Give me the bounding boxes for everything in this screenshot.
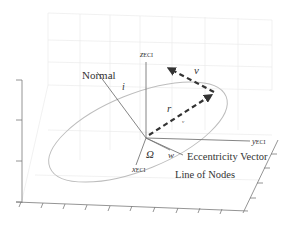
eccentricity-vector-label: Eccentricity Vector bbox=[187, 151, 268, 162]
arg-periapsis-label: w bbox=[168, 150, 174, 160]
left-frame-axis bbox=[16, 80, 22, 203]
position-subscript-label: v bbox=[182, 119, 185, 124]
normal-label: Normal bbox=[82, 69, 116, 81]
x-axis-label: xECI bbox=[131, 164, 145, 174]
y-axis-line bbox=[146, 138, 250, 141]
position-label: r bbox=[167, 102, 172, 114]
x-axis-line bbox=[136, 138, 146, 165]
orbital-elements-diagram: zECI yECI xECI Normal i v r v Ω w Eccent… bbox=[0, 0, 292, 227]
velocity-label: v bbox=[194, 64, 199, 76]
y-axis-label: yECI bbox=[251, 136, 265, 146]
z-axis-label: zECI bbox=[139, 49, 153, 59]
line-of-nodes-label: Line of Nodes bbox=[175, 169, 235, 180]
inclination-label: i bbox=[122, 81, 125, 92]
position-vector bbox=[149, 96, 210, 135]
raan-label: Ω bbox=[146, 148, 154, 160]
bottom-frame-axis bbox=[16, 202, 248, 214]
